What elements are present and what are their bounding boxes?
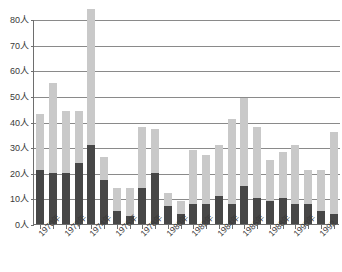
bar-segment-upper xyxy=(151,129,159,173)
y-tick-label: 40人 xyxy=(0,119,29,128)
bar-segment-lower xyxy=(266,201,274,224)
x-tick-mark xyxy=(206,225,207,229)
bar-segment-lower xyxy=(36,170,44,224)
plot-area: 1970年1972年1974年1976年1978年1980年1982年1984年… xyxy=(33,20,339,225)
y-tick-label: 50人 xyxy=(0,93,29,102)
bar-group[interactable] xyxy=(75,111,83,224)
bar-segment-upper xyxy=(49,83,57,173)
x-tick-mark xyxy=(181,225,182,229)
bar-segment-upper xyxy=(164,193,172,206)
y-tick-label: 0人 xyxy=(0,221,29,230)
bar-segment-upper xyxy=(100,157,108,180)
bar-segment-upper xyxy=(291,145,299,204)
x-tick-mark xyxy=(308,225,309,229)
bar-segment-upper xyxy=(62,111,70,173)
y-tick-mark xyxy=(31,97,34,98)
y-tick-label: 10人 xyxy=(0,195,29,204)
bar-segment-upper xyxy=(215,145,223,196)
bar-group[interactable] xyxy=(215,145,223,224)
x-tick-mark xyxy=(155,225,156,229)
bar-segment-lower xyxy=(164,206,172,224)
y-tick-label: 70人 xyxy=(0,42,29,51)
bar-group[interactable] xyxy=(87,9,95,224)
bar-segment-upper xyxy=(330,132,338,214)
bar-chart: 80人70人60人50人40人30人20人10人0人 1970年1972年197… xyxy=(0,0,342,272)
x-tick-mark xyxy=(130,225,131,229)
y-tick-label: 20人 xyxy=(0,170,29,179)
bar-segment-upper xyxy=(138,127,146,189)
y-tick-mark xyxy=(31,148,34,149)
bar-group[interactable] xyxy=(189,150,197,224)
y-tick-mark xyxy=(31,46,34,47)
bar-segment-upper xyxy=(253,127,261,199)
bar-segment-upper xyxy=(75,111,83,162)
x-tick-mark xyxy=(79,225,80,229)
bar-group[interactable] xyxy=(330,132,338,224)
bar-segment-lower xyxy=(317,211,325,224)
bar-segment-lower xyxy=(113,211,121,224)
bar-segment-upper xyxy=(279,152,287,198)
bar-group[interactable] xyxy=(49,83,57,224)
bar-segment-upper xyxy=(266,160,274,201)
bar-group[interactable] xyxy=(164,193,172,224)
y-tick-mark xyxy=(31,123,34,124)
x-tick-mark xyxy=(104,225,105,229)
bar-segment-lower xyxy=(291,204,299,225)
y-tick-mark xyxy=(31,174,34,175)
bar-group[interactable] xyxy=(253,127,261,224)
bar-group[interactable] xyxy=(240,98,248,224)
x-tick-mark xyxy=(334,225,335,229)
x-tick-mark xyxy=(257,225,258,229)
bar-group[interactable] xyxy=(291,145,299,224)
bar-segment-upper xyxy=(36,114,44,170)
bar-segment-lower xyxy=(62,173,70,224)
y-tick-mark xyxy=(31,199,34,200)
bar-group[interactable] xyxy=(138,127,146,224)
bar-segment-upper xyxy=(228,119,236,204)
y-tick-label: 60人 xyxy=(0,67,29,76)
bar-segment-lower xyxy=(215,196,223,224)
y-tick-mark xyxy=(31,20,34,21)
bar-segment-upper xyxy=(87,9,95,145)
x-tick-mark xyxy=(283,225,284,229)
bar-segment-upper xyxy=(202,155,210,204)
bar-segment-upper xyxy=(189,150,197,204)
bar-segment-upper xyxy=(317,170,325,211)
bar-group[interactable] xyxy=(317,170,325,224)
bar-group[interactable] xyxy=(36,114,44,224)
bar-group[interactable] xyxy=(266,160,274,224)
y-tick-label: 30人 xyxy=(0,144,29,153)
bar-group[interactable] xyxy=(62,111,70,224)
bars-layer xyxy=(34,19,340,224)
bar-segment-upper xyxy=(113,188,121,211)
y-tick-mark xyxy=(31,225,34,226)
bar-group[interactable] xyxy=(151,129,159,224)
x-tick-mark xyxy=(53,225,54,229)
bar-segment-lower xyxy=(87,145,95,224)
x-tick-mark xyxy=(232,225,233,229)
y-tick-mark xyxy=(31,71,34,72)
bar-segment-lower xyxy=(189,204,197,225)
bar-segment-upper xyxy=(304,170,312,203)
y-tick-label: 80人 xyxy=(0,16,29,25)
bar-group[interactable] xyxy=(228,119,236,224)
bar-segment-upper xyxy=(240,98,248,185)
